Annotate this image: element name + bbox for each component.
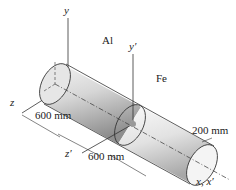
z-axis-label: z — [10, 96, 14, 108]
fe-material-label: Fe — [156, 72, 167, 84]
al-material-label: Al — [102, 34, 113, 46]
diameter-dimension: 200 mm — [192, 124, 228, 136]
al-length-dimension: 600 mm — [35, 109, 71, 121]
y-prime-axis-label: y′ — [129, 40, 136, 52]
x-axis-label: x, x′ — [196, 175, 214, 187]
y-axis-label: y — [64, 4, 69, 16]
centroid-dot — [130, 121, 136, 127]
fe-length-dimension: 600 mm — [88, 150, 124, 162]
z-prime-axis-label: z′ — [65, 147, 72, 159]
diagram-canvas: y y′ Al Fe z 600 mm 200 mm z′ 600 mm x, … — [0, 0, 236, 190]
